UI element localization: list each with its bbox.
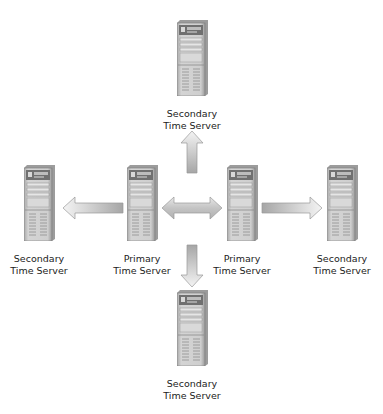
secondary-time-server-top: Secondary Time Server xyxy=(142,20,242,132)
arrow-up-icon xyxy=(180,130,204,174)
secondary-time-server-left: Secondary Time Server xyxy=(0,165,89,277)
server-tower-icon xyxy=(227,165,258,241)
arrow-right-icon xyxy=(261,196,323,220)
node-label: Primary Time Server xyxy=(92,253,192,277)
arrow-left-icon xyxy=(62,196,124,220)
server-tower-icon xyxy=(127,165,158,241)
server-tower-icon xyxy=(327,165,358,241)
primary-time-server-left: Primary Time Server xyxy=(92,165,192,277)
arrow-down-icon xyxy=(180,244,204,288)
node-label: Secondary Time Server xyxy=(292,253,383,277)
server-tower-icon xyxy=(177,20,208,96)
server-tower-icon xyxy=(177,290,208,366)
arrow-bidirectional-icon xyxy=(161,196,223,220)
node-label: Secondary Time Server xyxy=(142,108,242,132)
node-label: Primary Time Server xyxy=(192,253,292,277)
secondary-time-server-bottom: Secondary Time Server xyxy=(142,290,242,402)
node-label: Secondary Time Server xyxy=(142,378,242,402)
server-tower-icon xyxy=(24,165,55,241)
node-label: Secondary Time Server xyxy=(0,253,89,277)
primary-time-server-right: Primary Time Server xyxy=(192,165,292,277)
secondary-time-server-right: Secondary Time Server xyxy=(292,165,383,277)
